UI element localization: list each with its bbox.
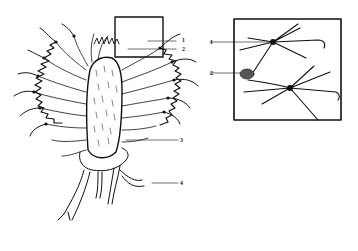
right-lobes	[122, 48, 174, 142]
appendage-right	[108, 166, 144, 204]
inset-hair-2	[244, 66, 339, 120]
appendage-left	[58, 170, 90, 220]
base	[80, 148, 129, 171]
inset-hair-1	[240, 24, 325, 74]
inset-leaders	[210, 42, 270, 73]
body-hatching	[94, 66, 117, 146]
label-4: 4	[180, 180, 183, 186]
inset-nodes	[270, 39, 293, 91]
label-2: 2	[182, 46, 185, 52]
left-lobes	[34, 34, 108, 156]
diagram: 1 2 3 4 1 2	[0, 0, 358, 251]
appendage-mid	[96, 172, 102, 198]
specimen-drawing	[0, 0, 358, 251]
label-1: 1	[182, 37, 185, 43]
inset-gland	[240, 69, 254, 79]
central-body	[87, 57, 122, 157]
label-3: 3	[180, 137, 183, 143]
inset-label-2: 2	[210, 70, 213, 76]
inset-label-1: 1	[210, 39, 213, 45]
